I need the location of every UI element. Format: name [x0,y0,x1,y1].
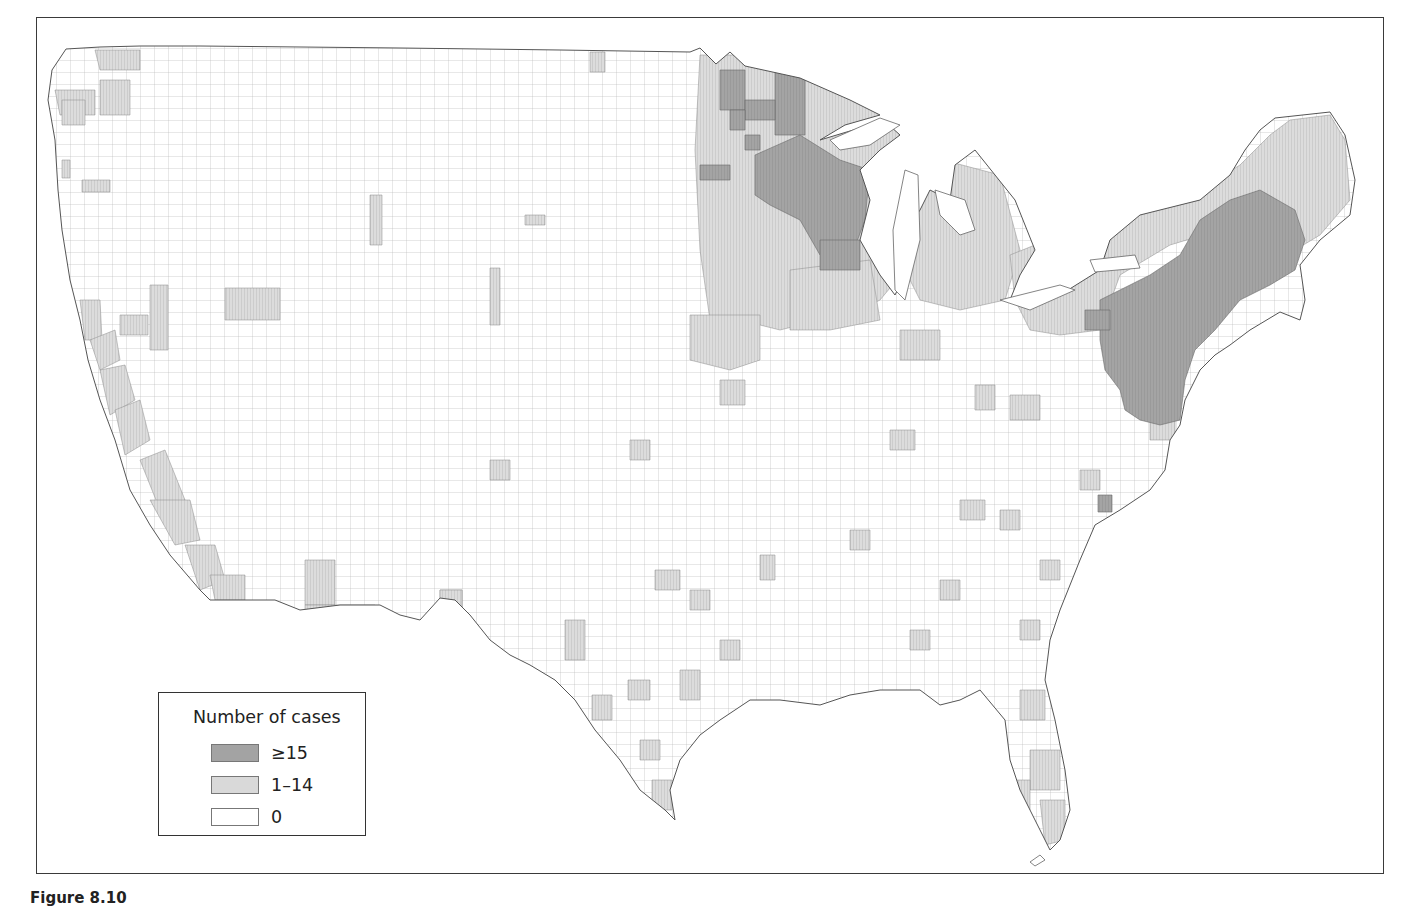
legend-swatch-zero [211,808,259,826]
legend-label-high: ≥15 [271,743,308,763]
legend-label-zero: 0 [271,807,282,827]
legend-label-low: 1–14 [271,775,313,795]
legend-item-low: 1–14 [211,775,313,795]
legend-swatch-high [211,744,259,762]
legend-item-high: ≥15 [211,743,308,763]
legend-title: Number of cases [193,707,341,727]
map-legend: Number of cases ≥15 1–14 0 [158,692,366,836]
legend-item-zero: 0 [211,807,282,827]
figure-caption: Figure 8.10 [30,889,127,907]
florida-keys [1030,855,1045,866]
legend-swatch-low [211,776,259,794]
